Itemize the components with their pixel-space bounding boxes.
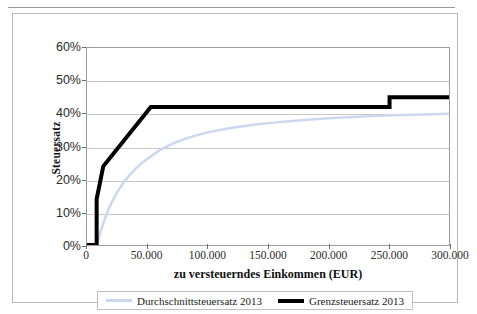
legend-entry: Grenzsteuersatz 2013: [278, 295, 404, 307]
y-tick-label: 20%: [39, 174, 81, 187]
x-tick-label: 0: [83, 250, 89, 262]
legend-label: Grenzsteuersatz 2013: [309, 295, 404, 307]
series-line: [87, 97, 449, 245]
y-tick-label: 60%: [39, 41, 81, 54]
x-axis-title: zu versteuerndes Einkommen (EUR): [86, 267, 450, 282]
x-tick-mark: [450, 244, 451, 249]
plot-area: [86, 47, 450, 246]
y-tick-label: 10%: [39, 207, 81, 220]
x-tick-mark: [268, 244, 269, 249]
chart-frame: Steuersatz 0%10%20%30%40%50%60% 050.0001…: [12, 13, 458, 303]
legend-swatch-icon: [278, 299, 304, 303]
x-tick-label: 250.000: [371, 250, 408, 262]
x-tick-mark: [86, 244, 87, 249]
x-tick-mark: [329, 244, 330, 249]
series-canvas: [87, 48, 449, 245]
y-axis: Steuersatz 0%10%20%30%40%50%60%: [33, 47, 81, 246]
x-tick-mark: [147, 244, 148, 249]
x-tick-mark: [389, 244, 390, 249]
legend-label: Durchschnittsteuersatz 2013: [137, 295, 262, 307]
chart-legend: Durchschnittsteuersatz 2013Grenzsteuersa…: [97, 291, 413, 310]
y-tick-label: 0%: [39, 240, 81, 253]
x-tick-label: 300.000: [431, 250, 468, 262]
x-tick-label: 100.000: [189, 250, 226, 262]
x-tick-label: 50.000: [131, 250, 163, 262]
x-tick-mark: [207, 244, 208, 249]
x-axis: 050.000100.000150.000200.000250.000300.0…: [86, 250, 450, 266]
x-tick-label: 150.000: [249, 250, 286, 262]
page-top-rule: [8, 7, 455, 8]
y-tick-label: 50%: [39, 74, 81, 87]
y-tick-label: 40%: [39, 107, 81, 120]
y-tick-label: 30%: [39, 141, 81, 154]
series-line: [87, 114, 449, 245]
x-tick-label: 200.000: [310, 250, 347, 262]
legend-swatch-icon: [106, 299, 132, 302]
legend-entry: Durchschnittsteuersatz 2013: [106, 295, 262, 307]
plot-area-wrapper: [86, 47, 450, 246]
